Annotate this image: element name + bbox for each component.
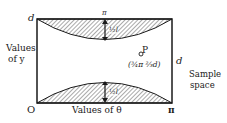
x-right-label: π	[168, 106, 175, 115]
right-side-label: d	[176, 56, 182, 66]
point-p-coords: (¾π ⅔d)	[128, 61, 161, 69]
lower-arrow-label: ½l	[109, 89, 118, 96]
y-axis-label-line1: Values	[6, 44, 36, 53]
x-axis-label: Values of θ	[72, 106, 122, 115]
sample-space-label-line2: space	[190, 81, 215, 90]
upper-arrow-label: ½l	[109, 27, 118, 34]
point-p-label: P	[142, 46, 148, 55]
y-top-label: d	[28, 13, 34, 23]
sample-space-label-line1: Sample	[189, 70, 221, 79]
y-axis-label-line2: of y	[8, 55, 25, 64]
origin-label: O	[27, 105, 35, 115]
top-center-label: π	[102, 10, 107, 17]
